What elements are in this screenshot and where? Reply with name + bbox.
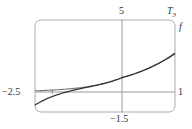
y-max-label: 5: [119, 6, 124, 16]
x-min-label: −2.5: [2, 87, 20, 97]
f-curve-label: f: [179, 22, 182, 32]
t3-curve-label: T3: [167, 6, 176, 20]
plot-area: [0, 0, 192, 129]
curve-t3: [35, 54, 175, 106]
t3-label-subscript: 3: [173, 11, 177, 19]
x-max-label: 1: [178, 87, 183, 97]
y-min-label: −1.5: [110, 114, 128, 124]
curve-f: [35, 53, 175, 91]
